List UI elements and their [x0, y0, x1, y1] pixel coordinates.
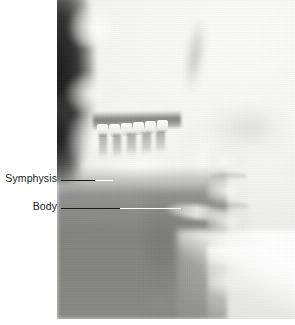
annotation-label-body: Body: [33, 200, 57, 212]
mandibular-tooth-root: [156, 131, 165, 153]
leader-line-symphysis-light: [95, 180, 113, 181]
cervical-vertebra: [207, 150, 249, 174]
soft-tissue-lip: [59, 74, 105, 114]
soft-tissue-nose: [61, 2, 111, 46]
annotation-label-symphysis: Symphysis: [5, 172, 57, 184]
lateral-cephalometric-radiograph-image: [57, 0, 295, 319]
cervical-vertebra: [207, 179, 251, 204]
leader-line-body-light: [120, 208, 181, 209]
radiograph-figure: Symphysis Body: [0, 0, 295, 325]
posterior-neck-border-outer: [207, 246, 295, 319]
